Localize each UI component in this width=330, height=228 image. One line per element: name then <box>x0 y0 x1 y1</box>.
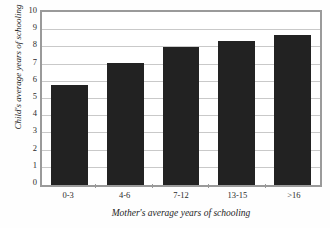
y-axis-tick-label: 1 <box>22 161 37 169</box>
x-axis-tick-label: 7-12 <box>153 190 209 204</box>
bar-slot <box>42 12 98 185</box>
bar-slot <box>264 12 320 185</box>
y-axis-tick-label: 6 <box>22 75 37 83</box>
x-axis-tick-mark <box>153 184 209 189</box>
x-axis-tick-mark <box>40 184 96 189</box>
y-axis-tick-label: 3 <box>22 126 37 134</box>
y-axis-tick-label: 4 <box>22 109 37 117</box>
bar-slot <box>209 12 265 185</box>
y-axis-tick-label: 7 <box>22 58 37 66</box>
x-axis-tick-label: 4-6 <box>96 190 152 204</box>
bar[interactable] <box>218 41 255 185</box>
chart-title <box>30 0 290 1</box>
bar-chart-figure: Child's average years of schooling 01234… <box>0 0 330 228</box>
x-axis-tick-label: 13-15 <box>209 190 265 204</box>
x-axis-tick-mark <box>96 184 152 189</box>
y-axis-tick-label: 10 <box>22 6 37 14</box>
x-axis-tick-mark <box>266 184 322 189</box>
x-axis-tick-label: 0-3 <box>40 190 96 204</box>
x-axis-tick-label: >16 <box>266 190 322 204</box>
bar-series <box>42 12 320 185</box>
bar[interactable] <box>163 47 200 185</box>
bar-slot <box>98 12 154 185</box>
bar[interactable] <box>51 85 88 185</box>
bar-slot <box>153 12 209 185</box>
plot-area <box>40 10 322 187</box>
y-axis-tick-label: 5 <box>22 92 37 100</box>
plot-inner <box>42 12 320 185</box>
y-axis-tick-label: 0 <box>22 178 37 186</box>
x-axis-tick-labels: 0-34-67-1213-15>16 <box>40 190 322 204</box>
y-axis-tick-labels: 012345678910 <box>22 5 37 191</box>
x-axis-tick-marks <box>40 184 322 189</box>
x-axis-tick-mark <box>209 184 265 189</box>
y-axis-tick-label: 9 <box>22 23 37 31</box>
y-axis-tick-label: 8 <box>22 40 37 48</box>
y-axis-tick-label: 2 <box>22 144 37 152</box>
bar[interactable] <box>107 63 144 185</box>
bar[interactable] <box>274 35 311 185</box>
x-axis-title: Mother's average years of schooling <box>40 208 322 218</box>
